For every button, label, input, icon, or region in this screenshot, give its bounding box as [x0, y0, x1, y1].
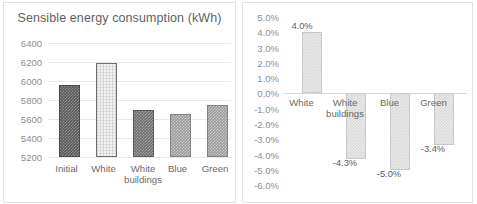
x-tick-initial: Initial	[48, 163, 85, 174]
bar-white	[96, 63, 117, 158]
page-title: Sensible energy consumption (kWh)	[4, 11, 235, 25]
y-tick: -1.0%	[254, 103, 279, 114]
y-tick: 4.0%	[257, 27, 279, 38]
y-tick: 6400	[21, 38, 42, 49]
gridline	[48, 157, 231, 158]
bar-blue	[170, 114, 191, 157]
x-tick-green: Green	[415, 97, 452, 108]
x-tick-green: Green	[195, 163, 235, 174]
two-panel-bar-figure: Sensible energy consumption (kWh) 6400 6…	[0, 0, 477, 204]
x-tick-white-buildings: White buildings	[322, 97, 368, 119]
y-axis-labels-right: 5.0% 4.0% 3.0% 2.0% 1.0% 0.0% -1.0% -2.0…	[245, 17, 279, 185]
y-tick: 1.0%	[257, 73, 279, 84]
data-label-green: -3.4%	[415, 144, 451, 154]
y-tick: 0.0%	[257, 88, 279, 99]
y-tick: 5800	[21, 95, 42, 106]
bar-green	[207, 105, 228, 157]
y-tick: -6.0%	[254, 180, 279, 191]
bar-white-buildings	[133, 110, 154, 157]
y-tick: -2.0%	[254, 118, 279, 129]
gridline	[48, 62, 231, 63]
x-tick-white: White	[283, 97, 320, 108]
data-label-blue: -5.0%	[371, 169, 407, 179]
x-tick-blue: Blue	[371, 97, 408, 108]
plot-area-left	[48, 43, 231, 157]
y-tick: -5.0%	[254, 164, 279, 175]
y-tick: 6200	[21, 57, 42, 68]
gridline	[48, 81, 231, 82]
y-tick: 2.0%	[257, 57, 279, 68]
data-label-white: 4.0%	[284, 21, 320, 31]
y-tick: 3.0%	[257, 42, 279, 53]
gridline	[48, 43, 231, 44]
y-tick: -3.0%	[254, 134, 279, 145]
y-tick: 5200	[21, 152, 42, 163]
y-tick: 5600	[21, 114, 42, 125]
sensible-energy-chart-panel: Sensible energy consumption (kWh) 6400 6…	[3, 2, 236, 203]
relative-change-chart-panel: 5.0% 4.0% 3.0% 2.0% 1.0% 0.0% -1.0% -2.0…	[242, 2, 473, 203]
bar-initial	[59, 85, 80, 157]
x-tick-white: White	[85, 163, 122, 174]
y-tick: 5400	[21, 132, 42, 143]
data-label-white-buildings: -4.3%	[327, 158, 363, 168]
y-tick: 5.0%	[257, 12, 279, 23]
x-tick-blue: Blue	[159, 163, 196, 174]
y-tick: 6000	[21, 75, 42, 86]
y-axis-labels-left: 6400 6200 6000 5800 5600 5400 5200	[12, 43, 42, 157]
y-tick: -4.0%	[254, 149, 279, 160]
bar-white	[302, 32, 322, 93]
